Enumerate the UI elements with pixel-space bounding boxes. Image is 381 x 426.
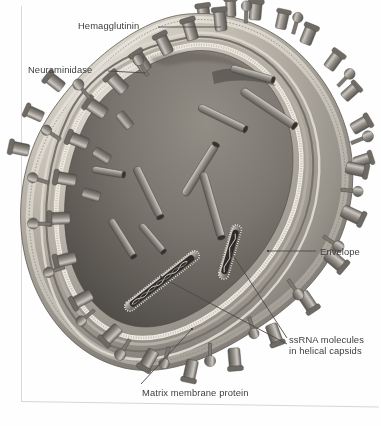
label-ssrna-line2: in helical capsids	[289, 345, 362, 356]
label-hemagglutinin: Hemagglutinin	[78, 20, 139, 31]
hemagglutinin-spike	[263, 322, 286, 349]
influenza-virus-diagram: Hemagglutinin Neuraminidase Envelope ssR…	[0, 0, 381, 426]
anchor-matrix	[191, 328, 193, 330]
anchor-envelope	[267, 250, 269, 252]
label-envelope: Envelope	[320, 246, 360, 257]
label-ssrna: ssRNA molecules in helical capsids	[289, 334, 381, 357]
label-neuraminidase: Neuraminidase	[28, 64, 92, 75]
neuraminidase-spike	[349, 129, 375, 148]
anchor-ssrna-lower	[160, 276, 162, 278]
label-ssrna-line1: ssRNA molecules	[289, 334, 364, 345]
label-matrix-membrane-protein: Matrix membrane protein	[142, 387, 249, 398]
anchor-ssrna-upper	[230, 251, 232, 253]
figure-page: Hemagglutinin Neuraminidase Envelope ssR…	[0, 0, 381, 426]
hemagglutinin-spike	[226, 347, 244, 371]
